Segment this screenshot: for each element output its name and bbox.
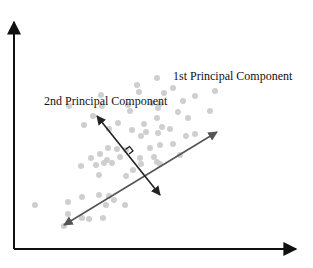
data-point (96, 172, 102, 178)
pca-diagram: 1st Principal Component 2nd Principal Co… (0, 0, 313, 268)
data-point (100, 215, 106, 221)
data-point (170, 85, 176, 91)
data-point (81, 122, 87, 128)
data-point (155, 130, 161, 136)
data-point (143, 129, 149, 135)
data-point (185, 115, 191, 121)
data-point (96, 192, 102, 198)
data-point (129, 127, 135, 133)
data-point (123, 173, 129, 179)
data-point (134, 82, 140, 88)
data-point (111, 197, 117, 203)
data-point (115, 120, 121, 126)
data-point (86, 216, 92, 222)
data-point (65, 199, 71, 205)
data-point (141, 121, 147, 127)
data-point (151, 154, 157, 160)
data-point (127, 108, 133, 114)
data-point (88, 155, 94, 161)
pc2-label: 2nd Principal Component (44, 94, 168, 108)
data-point (65, 211, 71, 217)
data-point (192, 131, 198, 137)
data-point (97, 151, 103, 157)
data-point (147, 145, 153, 151)
data-point (192, 93, 198, 99)
data-point (130, 167, 136, 173)
data-point (32, 202, 38, 208)
data-point (167, 126, 173, 132)
data-point (93, 162, 99, 168)
data-point (180, 98, 186, 104)
pc1-label: 1st Principal Component (173, 69, 293, 83)
data-point (175, 109, 181, 115)
data-point (114, 146, 120, 152)
data-point (78, 163, 84, 169)
data-point (183, 133, 189, 139)
data-point (212, 88, 218, 94)
data-point (79, 194, 85, 200)
data-point (159, 124, 165, 130)
data-point (170, 141, 176, 147)
data-point (105, 145, 111, 151)
data-point (137, 155, 143, 161)
data-point (122, 202, 128, 208)
data-point (109, 160, 115, 166)
data-point (207, 108, 213, 114)
data-point (154, 115, 160, 121)
data-point (103, 202, 109, 208)
data-point (157, 142, 163, 148)
pc2-arrow (97, 116, 160, 195)
data-point (154, 75, 160, 81)
pc1-arrow (64, 132, 217, 225)
data-point (90, 113, 96, 119)
data-point (138, 133, 144, 139)
data-point (138, 161, 144, 167)
data-point (117, 154, 123, 160)
data-point (101, 160, 107, 166)
